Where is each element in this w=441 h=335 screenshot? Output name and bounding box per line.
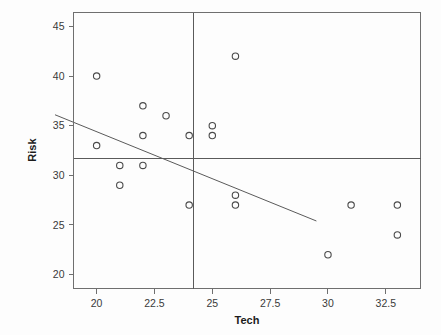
y-axis-title: Risk	[26, 138, 38, 162]
x-tick-label: 22.5	[144, 297, 165, 309]
figure-background	[0, 0, 441, 335]
x-tick-label: 25	[206, 297, 218, 309]
x-tick-label: 20	[91, 297, 103, 309]
y-tick-label: 20	[53, 268, 65, 280]
x-axis-title: Tech	[235, 314, 260, 326]
y-tick-label: 30	[53, 169, 65, 181]
x-tick-label: 30	[322, 297, 334, 309]
y-tick-label: 35	[53, 119, 65, 131]
y-tick-label: 40	[53, 70, 65, 82]
y-tick-label: 25	[53, 219, 65, 231]
plot-canvas: 2022.52527.53032.5 202530354045 Tech Ris…	[0, 0, 441, 335]
scatter-plot-figure: 2022.52527.53032.5 202530354045 Tech Ris…	[0, 0, 441, 335]
x-tick-label: 27.5	[260, 297, 281, 309]
y-tick-label: 45	[53, 20, 65, 32]
x-tick-label: 32.5	[376, 297, 397, 309]
